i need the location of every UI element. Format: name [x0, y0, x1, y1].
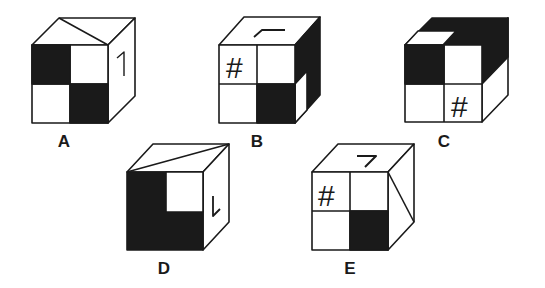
- cube-d: [127, 144, 229, 250]
- cube-c-front-black-tl: [405, 45, 444, 84]
- cube-d-front-white-tr: [166, 172, 203, 212]
- cube-e-hash-glyph: #: [318, 179, 335, 212]
- cube-b-hash-glyph: #: [226, 51, 243, 84]
- cube-puzzle-figure: # #: [0, 0, 545, 288]
- cube-e: #: [312, 144, 414, 250]
- cube-a-front-black-br: [70, 84, 108, 123]
- option-label-a: A: [58, 132, 70, 151]
- cube-c-hash-glyph: #: [451, 90, 468, 123]
- option-label-e: E: [344, 259, 355, 278]
- cube-a-front-black-tl: [32, 45, 70, 84]
- option-label-c: C: [438, 132, 450, 151]
- cube-b-front-black-br: [257, 84, 295, 123]
- cube-e-front-black-br: [350, 211, 388, 250]
- cube-b: #: [219, 17, 320, 123]
- cube-a: [32, 18, 135, 123]
- option-label-b: B: [251, 132, 263, 151]
- cube-c: #: [405, 18, 508, 123]
- option-label-d: D: [158, 259, 170, 278]
